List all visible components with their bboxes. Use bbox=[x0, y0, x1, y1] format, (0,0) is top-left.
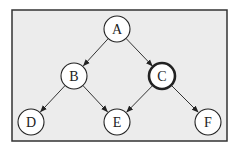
node-e: E bbox=[104, 109, 130, 135]
node-label: E bbox=[113, 115, 122, 130]
node-label: D bbox=[26, 115, 36, 130]
node-a: A bbox=[104, 16, 130, 42]
node-d: D bbox=[18, 109, 44, 135]
node-f: F bbox=[195, 109, 221, 135]
graph-diagram: ABCDEF bbox=[0, 0, 237, 150]
node-label: F bbox=[204, 115, 212, 130]
node-c: C bbox=[149, 63, 175, 89]
node-label: C bbox=[157, 69, 166, 84]
node-label: B bbox=[69, 69, 78, 84]
node-label: A bbox=[112, 22, 123, 37]
node-b: B bbox=[61, 63, 87, 89]
